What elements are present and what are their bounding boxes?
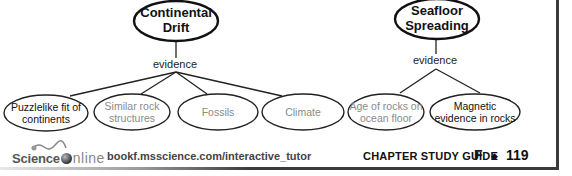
concept-magnetic-evidence[interactable]: Magnetic evidence in rocks — [432, 96, 518, 128]
concept-continental-drift: Continental Drift — [136, 3, 216, 39]
page-frame-bottom — [0, 167, 559, 170]
concept-climate[interactable]: Climate — [264, 96, 342, 128]
book-letter: F — [474, 147, 483, 163]
page-number: 119 — [506, 147, 529, 163]
node-text-line2: structures — [109, 112, 155, 124]
concept-title-line2: Spreading — [405, 19, 469, 34]
logo-science-text: Science — [12, 151, 60, 166]
node-text-line1: Similar rock — [105, 100, 160, 112]
interactive-tutor-link[interactable]: bookf.msscience.com/interactive_tutor — [107, 150, 311, 162]
node-text-line2: continents — [22, 113, 70, 125]
page-frame-right — [556, 0, 559, 170]
concept-seafloor-spreading: Seafloor Spreading — [397, 1, 477, 37]
node-text-line1: Climate — [285, 106, 321, 118]
concept-title-line1: Continental — [140, 6, 212, 21]
node-text-line1: Age of rocks on — [350, 100, 423, 112]
link-label-evidence: evidence — [151, 58, 199, 70]
swoosh-icon — [30, 140, 70, 152]
concept-title-line2: Drift — [163, 21, 190, 36]
link-label-evidence: evidence — [411, 54, 459, 66]
node-text-line2: ocean floor — [360, 112, 412, 124]
node-text-line2: evidence in rocks — [434, 112, 515, 124]
node-text-line1: Fossils — [202, 106, 235, 118]
concept-puzzlelike-fit[interactable]: Puzzlelike fit of continents — [6, 97, 86, 129]
diamond-separator-icon: ◆ — [491, 151, 498, 161]
logo-online-text: nline — [73, 150, 105, 166]
concept-title-line1: Seafloor — [411, 4, 463, 19]
study-guide-page: Continental Drift evidence Seafloor Spre… — [0, 0, 572, 176]
science-online-logo[interactable]: Science nline — [12, 148, 105, 166]
concept-fossils[interactable]: Fossils — [180, 96, 256, 128]
globe-icon — [61, 153, 72, 164]
concept-age-of-rocks[interactable]: Age of rocks on ocean floor — [349, 96, 423, 128]
node-text-line1: Puzzlelike fit of — [11, 101, 81, 113]
node-text-line1: Magnetic — [454, 100, 497, 112]
concept-similar-rock-structures[interactable]: Similar rock structures — [96, 96, 168, 128]
